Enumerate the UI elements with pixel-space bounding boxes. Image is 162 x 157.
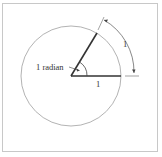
radius-label: 1 bbox=[96, 79, 100, 89]
arc-label: 1 bbox=[123, 39, 127, 49]
radian-diagram: 1 radian 1 1 bbox=[0, 0, 162, 157]
angle-label: 1 radian bbox=[36, 62, 64, 72]
figure-border bbox=[3, 4, 158, 152]
